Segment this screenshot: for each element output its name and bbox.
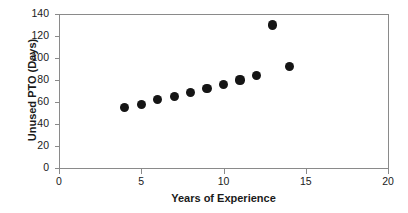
data-point xyxy=(137,100,146,109)
y-tick-label: 100 xyxy=(15,51,49,63)
x-tick-label: 0 xyxy=(44,175,74,187)
y-tick-label: 80 xyxy=(15,73,49,85)
y-tick-label: 40 xyxy=(15,117,49,129)
x-tick-label: 15 xyxy=(291,175,321,187)
x-tick-label: 5 xyxy=(126,175,156,187)
y-tick-label: 140 xyxy=(15,7,49,19)
y-tick-label: 60 xyxy=(15,95,49,107)
y-tick-label: 0 xyxy=(15,161,49,173)
data-point xyxy=(202,84,211,93)
data-point xyxy=(235,75,244,84)
scatter-chart: Unused PTO (Days) Years of Experience 02… xyxy=(0,0,408,213)
x-tick-label: 20 xyxy=(373,175,403,187)
y-tick-label: 120 xyxy=(15,29,49,41)
x-axis-title: Years of Experience xyxy=(59,192,388,204)
data-point xyxy=(170,92,179,101)
x-tick-label: 10 xyxy=(209,175,239,187)
data-point xyxy=(186,88,195,97)
y-tick-label: 20 xyxy=(15,139,49,151)
data-point xyxy=(219,80,228,89)
data-point xyxy=(268,20,277,29)
